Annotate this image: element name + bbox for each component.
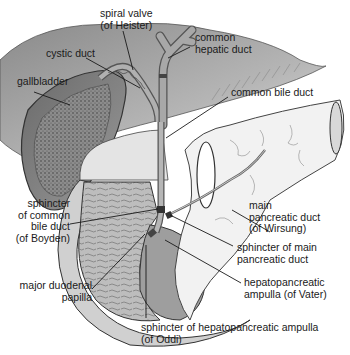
label-line: bile duct — [6, 221, 70, 233]
label-line: pancreatic duct — [237, 254, 317, 266]
label-line: sphincter of main — [237, 242, 317, 254]
label-gallbladder: gallbladder — [17, 76, 68, 88]
label-common-hepatic-duct: common hepatic duct — [195, 32, 252, 55]
label-line: papilla — [6, 292, 92, 304]
label-spiral-valve: spiral valve (of Heister) — [100, 8, 153, 31]
label-line: (of Heister) — [100, 20, 153, 32]
label-line: ampulla (of Vater) — [244, 289, 327, 301]
label-line: hepatopancreatic — [244, 277, 327, 289]
label-sphincter-main-pancreatic-duct: sphincter of main pancreatic duct — [237, 242, 317, 265]
label-cystic-duct: cystic duct — [46, 48, 95, 60]
label-sphincter-hepatopancreatic-ampulla: sphincter of hepatopancreatic ampulla (o… — [141, 322, 318, 345]
label-common-bile-duct: common bile duct — [231, 87, 313, 99]
label-line: sphincter of hepatopancreatic ampulla — [141, 322, 318, 334]
label-line: (of Boyden) — [6, 233, 70, 245]
label-major-duodenal-papilla: major duodenal papilla — [6, 280, 92, 303]
label-line: main — [249, 200, 320, 212]
label-line: hepatic duct — [195, 44, 252, 56]
label-line: (of Oddi) — [141, 334, 318, 346]
label-line: gallbladder — [17, 76, 68, 88]
label-sphincter-common-bile-duct: sphincter of common bile duct (of Boyden… — [6, 198, 70, 244]
label-line: common bile duct — [231, 87, 313, 99]
label-line: common — [195, 32, 252, 44]
label-main-pancreatic-duct: main pancreatic duct (of Wirsung) — [249, 200, 320, 235]
label-line: sphincter — [6, 198, 70, 210]
label-line: major duodenal — [6, 280, 92, 292]
label-line: (of Wirsung) — [249, 223, 320, 235]
biliary-anatomy-diagram: spiral valve (of Heister) common hepatic… — [0, 0, 350, 355]
label-line: cystic duct — [46, 48, 95, 60]
label-hepatopancreatic-ampulla: hepatopancreatic ampulla (of Vater) — [244, 277, 327, 300]
label-line: spiral valve — [100, 8, 153, 20]
